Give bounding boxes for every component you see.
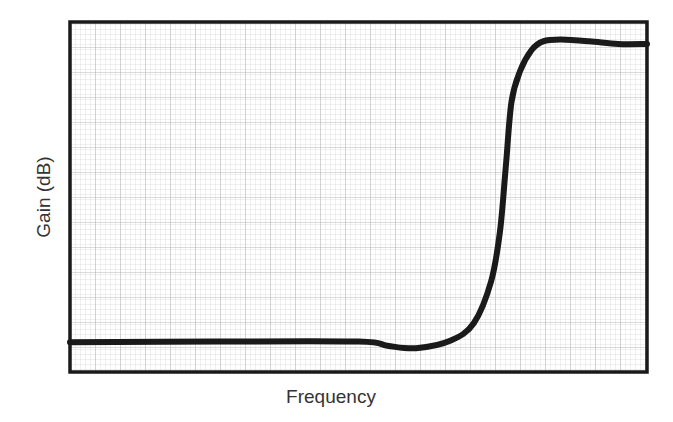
plot-area bbox=[70, 22, 647, 372]
y-axis-label: Gain (dB) bbox=[33, 156, 54, 237]
chart: Frequency Gain (dB) bbox=[0, 0, 673, 422]
grid bbox=[70, 22, 647, 372]
x-axis-label: Frequency bbox=[286, 386, 376, 407]
